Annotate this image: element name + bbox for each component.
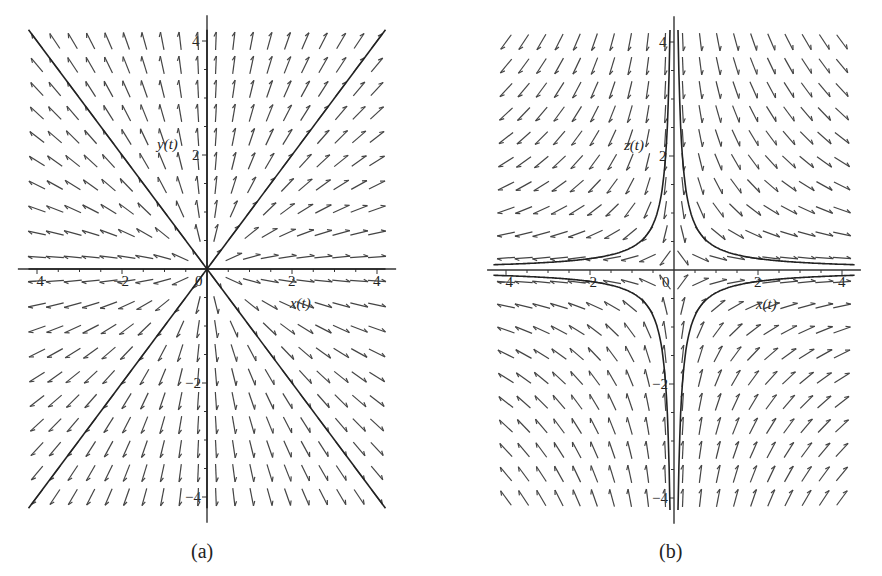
y-tick-label: −4 [652,490,668,506]
caption-a: (a) [191,540,213,563]
panel-a-phase-portrait: −4−2024−4−224x(t)y(t) [18,15,396,522]
panel-b-phase-portrait: −4−2024−4−224x(t)z(t) [487,16,861,523]
trajectory-curve [678,30,855,265]
caption-b: (b) [659,540,682,563]
trajectory-curve [493,275,670,510]
figure-canvas: −4−2024−4−224x(t)y(t) −4−2024−4−224x(t)z… [0,0,882,576]
y-axis-label: y(t) [155,136,178,153]
y-axis-label: z(t) [623,137,644,154]
